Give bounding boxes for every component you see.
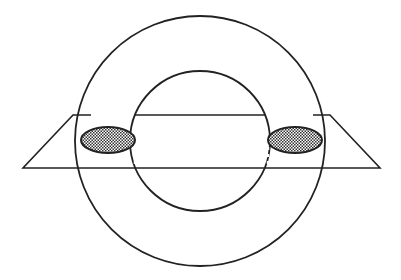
cross-section-left <box>81 127 135 153</box>
torus-plane-diagram <box>0 0 401 280</box>
cross-section-right <box>268 127 322 153</box>
